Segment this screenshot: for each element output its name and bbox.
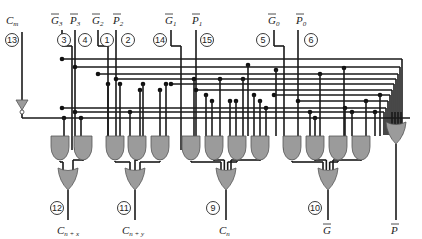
or-gate-cnx: [58, 168, 78, 190]
junction-dot: [73, 65, 78, 70]
and-gate: [182, 136, 200, 160]
and-gate: [306, 136, 324, 160]
and-gate: [228, 136, 246, 160]
input-label-p1: P1: [191, 14, 202, 28]
junction-dot: [296, 99, 301, 104]
pin-number: 3: [61, 35, 66, 45]
input-label-p0: P0: [295, 14, 307, 28]
input-label-g3: G3: [51, 14, 63, 28]
and-gate: [352, 136, 370, 160]
and-gate: [51, 136, 69, 160]
pin-number: 2: [125, 35, 130, 45]
or-gate-g: [318, 168, 338, 190]
pin-number: 4: [82, 35, 87, 45]
output-label-cn: Cn: [219, 224, 230, 238]
output-label-cnx: Cn + x: [57, 224, 80, 238]
output-label-g: G: [323, 224, 331, 236]
input-label-g0: G0: [268, 14, 280, 28]
wiring: [22, 30, 410, 220]
pin-number: 13: [7, 35, 17, 45]
pin-number: 9: [210, 203, 215, 213]
and-gate: [74, 136, 92, 160]
pin-number: 5: [260, 35, 265, 45]
junction-dot: [96, 72, 101, 77]
and-gate: [151, 136, 169, 160]
and-gate: [329, 136, 347, 160]
pin-number: 11: [119, 203, 128, 213]
input-label-g2: G2: [92, 14, 104, 28]
input-label-g1: G1: [165, 14, 176, 28]
pin-number: 1: [104, 35, 109, 45]
input-label-cm: Cm: [6, 14, 18, 28]
junction-dot: [60, 106, 65, 111]
or-gate-cn: [216, 168, 236, 190]
input-label-p2: P2: [112, 14, 124, 28]
or-gate-p: [386, 122, 406, 144]
junction-dot: [73, 110, 78, 115]
carry-lookahead-diagram: Cm13G33P34G21P22G114P115G05P06Cn + x12Cn…: [0, 0, 422, 239]
input-label-p3: P3: [69, 14, 81, 28]
and-gate: [205, 136, 223, 160]
pin-number: 6: [308, 35, 313, 45]
pin-number: 12: [52, 203, 62, 213]
junction-dot: [169, 82, 174, 87]
and-gate: [251, 136, 269, 160]
output-label-p: P: [390, 224, 398, 236]
junction-dot: [114, 77, 119, 82]
pin-number: 10: [310, 203, 320, 213]
inverter-bubble: [20, 110, 24, 114]
junction-dot: [60, 57, 65, 62]
inverter-gate: [16, 100, 28, 110]
pin-number: 15: [202, 35, 212, 45]
output-label-cny: Cn + y: [122, 224, 145, 238]
pin-number: 14: [155, 35, 165, 45]
or-gate-cny: [125, 168, 145, 190]
and-gate: [128, 136, 146, 160]
and-gate: [106, 136, 124, 160]
and-gate: [283, 136, 301, 160]
